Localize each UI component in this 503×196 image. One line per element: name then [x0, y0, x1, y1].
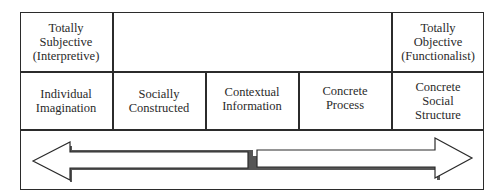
left-arrow-icon [33, 142, 248, 180]
right-arrow-icon [257, 138, 472, 178]
arrows-layer [0, 0, 503, 196]
